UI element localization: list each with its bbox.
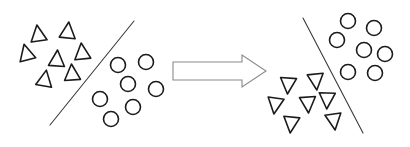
triangle-up-icon <box>48 49 65 66</box>
arrow-right-icon <box>173 55 266 87</box>
triangle-up-icon <box>29 24 47 42</box>
triangle-up-icon <box>59 21 77 39</box>
triangle-down-icon <box>279 77 296 94</box>
after-panel <box>266 14 393 134</box>
circle-group-after <box>330 14 393 81</box>
before-panel <box>16 21 163 127</box>
circle-icon <box>357 43 372 58</box>
circle-icon <box>149 82 164 97</box>
triangle-down-icon <box>299 96 316 113</box>
triangle-down-icon <box>319 93 336 110</box>
triangle-down-icon <box>266 97 284 115</box>
class-separation-figure <box>0 0 410 147</box>
circle-icon <box>111 58 126 73</box>
triangle-down-icon <box>282 116 300 134</box>
circle-icon <box>341 14 356 29</box>
triangle-group-downward-after <box>266 73 343 134</box>
triangle-down-icon <box>325 113 343 131</box>
circle-icon <box>341 65 356 80</box>
circle-icon <box>139 55 154 70</box>
circle-icon <box>330 33 345 48</box>
circle-group-before <box>93 55 164 127</box>
triangle-group-upward-before <box>16 21 90 87</box>
figure-canvas <box>0 0 410 147</box>
transformation-arrow <box>173 55 266 87</box>
triangle-up-icon <box>16 42 35 61</box>
triangle-up-icon <box>36 69 55 88</box>
circle-icon <box>121 77 136 92</box>
circle-icon <box>367 21 382 36</box>
triangle-up-icon <box>73 42 91 60</box>
triangle-down-icon <box>307 73 325 91</box>
circle-icon <box>104 112 119 127</box>
triangle-up-icon <box>63 63 80 80</box>
circle-icon <box>368 66 383 81</box>
circle-icon <box>126 100 141 115</box>
circle-icon <box>93 92 108 107</box>
circle-icon <box>378 47 393 62</box>
